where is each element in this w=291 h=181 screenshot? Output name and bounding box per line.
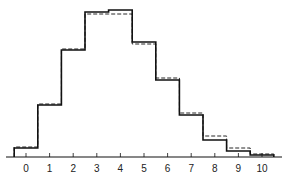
x-tick-label: 9 <box>236 163 242 174</box>
x-tick-labels: 012345678910 <box>23 163 268 174</box>
x-axis <box>6 153 282 157</box>
x-tick-label: 3 <box>94 163 100 174</box>
x-tick-label: 10 <box>256 163 268 174</box>
step-histogram-chart: 012345678910 <box>0 0 291 181</box>
expected-series-dashed <box>14 14 274 157</box>
x-tick-label: 6 <box>165 163 171 174</box>
x-tick-label: 2 <box>70 163 76 174</box>
x-tick-label: 8 <box>212 163 218 174</box>
x-tick-label: 7 <box>188 163 194 174</box>
observed-series-solid <box>14 10 274 157</box>
x-tick-label: 4 <box>118 163 124 174</box>
x-tick-label: 5 <box>141 163 147 174</box>
x-tick-label: 0 <box>23 163 29 174</box>
x-tick-label: 1 <box>47 163 53 174</box>
